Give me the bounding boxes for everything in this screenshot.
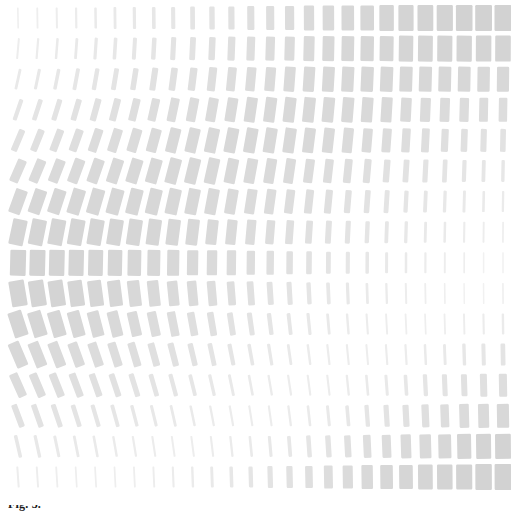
filter-cell (424, 313, 427, 334)
filter-cell (9, 372, 27, 398)
filter-cell (248, 436, 253, 457)
filter-cell (326, 375, 331, 396)
filter-cell (125, 187, 144, 215)
filter-cell (126, 218, 143, 246)
filter-cell (442, 374, 448, 396)
filter-cell (495, 464, 511, 490)
filter-cell (55, 38, 59, 59)
filter-cell (8, 218, 28, 246)
figure-caption: Fig. 3. (8, 505, 248, 519)
filter-cell (304, 5, 314, 30)
filter-cell (107, 128, 123, 154)
filter-cell (247, 312, 255, 335)
filter-cell (246, 36, 255, 60)
filter-cell (385, 283, 388, 304)
filter-cell (94, 466, 97, 487)
filter-cell (164, 188, 182, 216)
filter-cell (341, 66, 354, 92)
filter-cell (243, 158, 258, 185)
filter-cell (114, 466, 117, 487)
filter-cell (476, 36, 492, 62)
filter-cell (441, 129, 449, 152)
filter-cell (303, 159, 315, 184)
filter-cell (326, 313, 331, 334)
filter-cell (400, 434, 411, 458)
filter-cell (303, 36, 315, 61)
filter-cell (33, 435, 41, 458)
filter-cell (322, 66, 335, 92)
filter-cell (402, 405, 409, 427)
filter-cell (475, 5, 492, 31)
filter-cell (421, 128, 430, 152)
filter-cell (11, 404, 25, 429)
filter-cell (51, 99, 62, 122)
filter-cell (483, 283, 485, 304)
filter-cell (47, 341, 66, 369)
filter-cell (113, 7, 116, 29)
filter-cell (346, 313, 350, 334)
filter-cell (462, 344, 466, 366)
filter-cell (287, 436, 292, 457)
filter-cell (229, 436, 234, 457)
filter-cell (360, 66, 374, 92)
filter-cell (383, 159, 391, 182)
filter-cell (47, 188, 67, 216)
filter-cell (284, 36, 295, 60)
filter-cell (229, 405, 235, 426)
filter-cell (341, 127, 354, 153)
filter-cell (287, 344, 293, 365)
filter-cell (184, 188, 201, 216)
filter-cell (151, 436, 156, 457)
filter-cell (130, 68, 139, 91)
filter-cell (265, 36, 275, 60)
filter-cell (17, 7, 19, 28)
filter-cell (482, 191, 485, 212)
filter-cell (343, 465, 353, 488)
filter-cell (133, 466, 136, 487)
filter-cell (500, 344, 505, 366)
filter-cell (424, 283, 426, 304)
filter-cell (105, 187, 124, 216)
filter-cell (248, 466, 253, 487)
filter-cell (418, 36, 433, 62)
filter-cell (74, 38, 78, 59)
filter-cell (365, 221, 370, 243)
filter-cell (364, 405, 370, 427)
filter-cell (86, 187, 106, 216)
filter-cell (130, 405, 139, 427)
filter-cell (224, 188, 239, 214)
filter-cell (34, 69, 41, 90)
filter-cell (405, 252, 408, 273)
filter-cell (106, 218, 124, 246)
filter-cell (72, 68, 80, 90)
filter-cell (87, 280, 104, 308)
filter-cell (225, 219, 238, 245)
filter-cell (365, 313, 368, 334)
filter-cell (145, 187, 163, 215)
filter-cell (424, 344, 428, 365)
filter-cell (438, 434, 451, 458)
filter-cell (437, 5, 453, 31)
filter-cell (108, 250, 123, 276)
filter-cell (127, 280, 142, 307)
filter-cell (495, 36, 511, 62)
filter-cell (106, 157, 125, 184)
filter-cell (66, 187, 86, 216)
filter-cell (420, 98, 431, 122)
filter-cell (267, 466, 273, 488)
filter-cell (229, 466, 233, 487)
filter-cell (480, 374, 488, 397)
filter-cell (49, 250, 65, 276)
filter-cell (172, 466, 175, 487)
filter-cell (112, 38, 117, 60)
filter-cell (92, 68, 100, 90)
filter-cell (247, 281, 256, 305)
filter-cell (47, 279, 66, 307)
filter-cell (398, 5, 413, 31)
filter-cell (321, 97, 335, 123)
filter-cell (90, 404, 101, 427)
filter-cell (248, 375, 254, 396)
filter-cell (223, 158, 239, 185)
filter-cell (168, 374, 178, 397)
filter-cell (419, 67, 432, 92)
